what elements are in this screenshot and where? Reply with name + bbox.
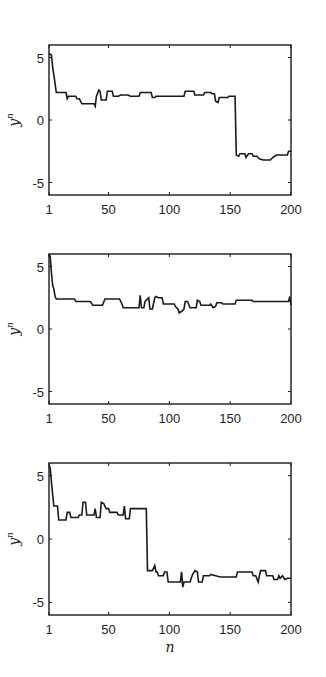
- subplot-3: 15010015020050-5yn: [5, 463, 302, 637]
- y-tick-label: 5: [37, 260, 44, 275]
- y-tick-label: -5: [32, 595, 44, 610]
- y-tick-label: -5: [32, 385, 44, 400]
- y-tick-label: 0: [37, 532, 44, 547]
- y-tick-label: -5: [32, 176, 44, 191]
- axes-frame: [49, 45, 291, 195]
- x-tick-label: 50: [101, 411, 115, 426]
- series-line-panel-2: [49, 254, 291, 313]
- x-tick-label: 200: [280, 622, 302, 637]
- series-line-panel-3: [49, 466, 291, 588]
- subplot-1: 15010015020050-5yn: [5, 45, 302, 217]
- x-tick-label: 100: [159, 622, 181, 637]
- x-tick-label: 1: [45, 411, 52, 426]
- x-tick-label: 100: [159, 411, 181, 426]
- x-tick-label: 1: [45, 622, 52, 637]
- y-axis-label-superscript: n: [5, 322, 15, 328]
- x-tick-label: 50: [101, 202, 115, 217]
- y-tick-label: 0: [37, 322, 44, 337]
- y-axis-label: yn: [5, 113, 22, 128]
- y-tick-label: 5: [37, 51, 44, 66]
- x-tick-label: 150: [219, 411, 241, 426]
- y-tick-label: 5: [37, 469, 44, 484]
- axes-frame: [49, 254, 291, 404]
- x-tick-label: 50: [101, 622, 115, 637]
- axes-frame: [49, 463, 291, 615]
- x-tick-label: 150: [219, 202, 241, 217]
- series-line-panel-1: [49, 54, 291, 160]
- x-tick-label: 200: [280, 411, 302, 426]
- x-tick-label: 1: [45, 202, 52, 217]
- x-axis-label: n: [165, 639, 174, 655]
- x-tick-label: 150: [219, 622, 241, 637]
- subplot-2: 15010015020050-5yn: [5, 254, 302, 426]
- figure: 15010015020050-5yn15010015020050-5yn1501…: [0, 0, 326, 677]
- y-axis-label: yn: [5, 322, 22, 337]
- y-axis-label: yn: [5, 532, 22, 547]
- y-axis-label-superscript: n: [5, 113, 15, 119]
- y-axis-label-superscript: n: [5, 532, 15, 538]
- y-tick-label: 0: [37, 113, 44, 128]
- x-tick-label: 100: [159, 202, 181, 217]
- x-tick-label: 200: [280, 202, 302, 217]
